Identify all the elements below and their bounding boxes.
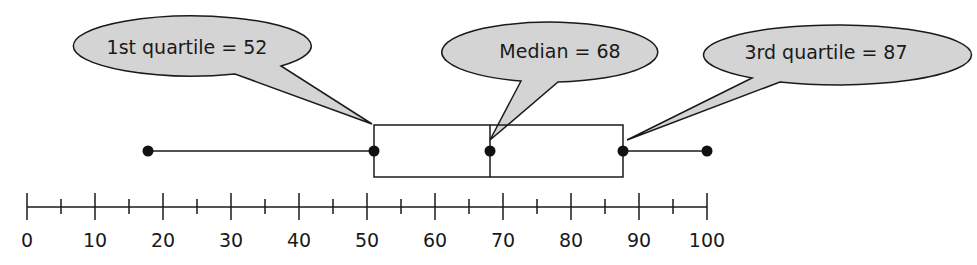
max-point: [702, 146, 713, 157]
tick-label: 90: [627, 229, 651, 251]
callout-median-text: Median = 68: [499, 40, 620, 62]
q3-point: [618, 146, 629, 157]
callout-q1-bubble: [73, 16, 372, 124]
tick-label: 80: [559, 229, 583, 251]
q1-point: [369, 146, 380, 157]
box-plot-chart: 1st quartile = 52 Median = 68 3rd quarti…: [0, 0, 977, 265]
tick-label: 60: [423, 229, 447, 251]
tick-label: 20: [151, 229, 175, 251]
callout-q1: 1st quartile = 52: [73, 16, 372, 124]
tick-label: 10: [83, 229, 107, 251]
callout-median: Median = 68: [442, 22, 658, 140]
number-line-axis: 0102030405060708090100: [21, 193, 725, 251]
tick-label: 50: [355, 229, 379, 251]
callout-q3: 3rd quartile = 87: [627, 25, 972, 140]
tick-label: 40: [287, 229, 311, 251]
min-point: [143, 146, 154, 157]
tick-label: 0: [21, 229, 33, 251]
median-point: [485, 146, 496, 157]
tick-label: 30: [219, 229, 243, 251]
callout-q3-text: 3rd quartile = 87: [744, 41, 907, 63]
tick-label: 70: [491, 229, 515, 251]
tick-label: 100: [689, 229, 725, 251]
callout-q1-text: 1st quartile = 52: [107, 36, 268, 58]
